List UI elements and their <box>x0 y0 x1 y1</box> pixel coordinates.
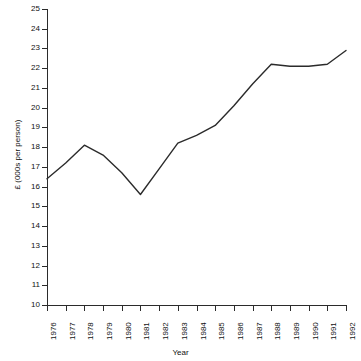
line-chart: 10111213141516171819202122232425 1976197… <box>0 0 361 361</box>
y-axis-title: £ (000s per person) <box>13 100 22 210</box>
data-series-line <box>0 0 361 361</box>
x-axis-title: Year <box>0 348 361 357</box>
